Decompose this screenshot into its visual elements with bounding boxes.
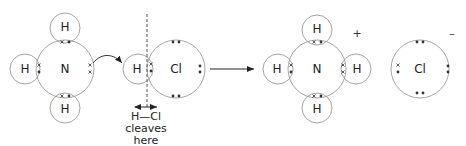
lone-pair-top bbox=[172, 41, 181, 44]
negative-charge: – bbox=[449, 27, 455, 40]
ammonia-molecule: N H H H bbox=[10, 13, 94, 123]
chloride-ion: Cl bbox=[391, 40, 449, 98]
lone-pair-bottom bbox=[172, 95, 181, 98]
lone-pair-top bbox=[416, 41, 425, 44]
gained-electron-pair bbox=[397, 64, 400, 74]
hydrogen-label: H bbox=[352, 62, 361, 76]
lone-pair-nitrogen bbox=[89, 64, 92, 74]
hydrogen-label: H bbox=[60, 102, 69, 116]
hydrogen-label: H bbox=[60, 20, 69, 34]
positive-charge: + bbox=[352, 27, 361, 40]
chlorine-label: Cl bbox=[414, 62, 426, 76]
nitrogen-label: N bbox=[313, 62, 322, 76]
hydrogen-label: H bbox=[132, 62, 141, 76]
bond-electrons-top bbox=[313, 41, 323, 44]
chlorine-label: Cl bbox=[170, 62, 182, 76]
hydrogen-label: H bbox=[312, 22, 321, 36]
bond-electrons-bottom bbox=[313, 95, 323, 98]
bond-electrons-bottom bbox=[61, 95, 71, 98]
hydrogen-label: H bbox=[20, 62, 29, 76]
hydrogen-label: H bbox=[312, 102, 321, 116]
lone-pair-bottom bbox=[416, 92, 425, 95]
nitrogen-label: N bbox=[61, 62, 70, 76]
curved-arrow bbox=[93, 55, 122, 63]
hydrogen-label: H bbox=[272, 62, 281, 76]
hydrogen-chloride-molecule: H Cl bbox=[123, 40, 205, 98]
lone-pair-right bbox=[199, 65, 202, 74]
reaction-diagram: N H H H H Cl bbox=[0, 0, 466, 146]
annotation-line-3: here bbox=[134, 134, 159, 146]
